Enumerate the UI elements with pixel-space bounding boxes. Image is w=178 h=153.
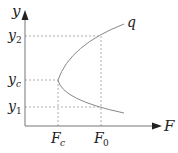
x-tick-f0: F 0	[93, 130, 109, 148]
y-tick-y1: y 1	[7, 98, 22, 116]
svg-text:c: c	[60, 138, 65, 148]
svg-text:1: 1	[16, 106, 22, 116]
bifurcation-curve	[58, 24, 124, 113]
axes	[25, 14, 156, 126]
bifurcation-diagram: y F q y 2 y c y 1 F c F 0	[0, 0, 178, 153]
svg-text:c: c	[16, 79, 21, 89]
y-axis-label: y	[11, 2, 21, 20]
guide-lines	[25, 36, 101, 126]
y-tick-yc: y c	[7, 71, 21, 89]
x-tick-fc: F c	[50, 130, 65, 148]
curve-label-q: q	[127, 14, 136, 30]
svg-text:0: 0	[103, 138, 109, 148]
y-tick-y2: y 2	[7, 27, 22, 45]
svg-text:2: 2	[16, 35, 22, 45]
x-axis-label: F	[163, 117, 175, 135]
y-axis-arrow-icon	[22, 10, 29, 20]
x-axis-arrow-icon	[152, 123, 162, 130]
